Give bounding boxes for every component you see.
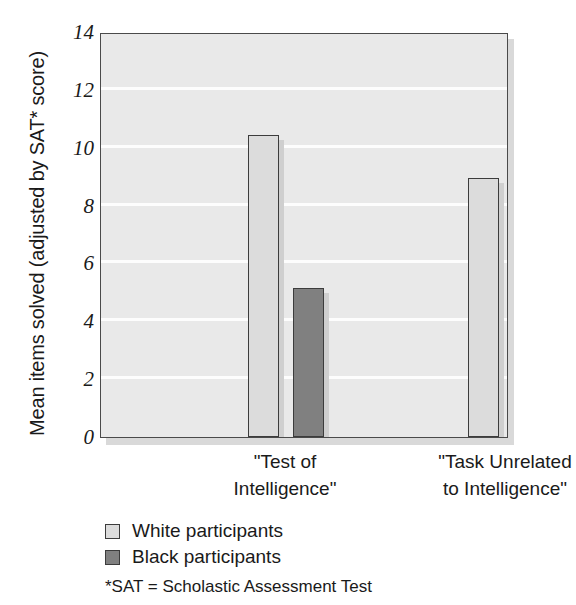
gridline: [101, 145, 507, 148]
y-axis-tick-label: 8: [52, 196, 94, 217]
gridline: [101, 260, 507, 263]
gridline: [101, 87, 507, 90]
legend-item-label: White participants: [132, 520, 283, 542]
dark-gray-swatch: [105, 550, 120, 565]
y-axis-tick-label: 4: [52, 311, 94, 332]
y-axis-tick-label: 0: [52, 427, 94, 448]
x-axis-category-label: "Task Unrelatedto Intelligence": [395, 448, 576, 502]
category-label-line: Intelligence": [175, 475, 395, 502]
footnote: *SAT = Scholastic Assessment Test: [105, 577, 372, 597]
chart-legend: White participantsBlack participants: [105, 518, 435, 570]
x-axis-category-label: "Test ofIntelligence": [175, 448, 395, 502]
y-axis-title: Mean items solved (adjusted by SAT* scor…: [26, 34, 49, 454]
gridline: [101, 203, 507, 206]
y-axis-tick-labels: 02468101214: [52, 0, 94, 605]
y-axis-tick-label: 12: [52, 80, 94, 101]
bar-black-participants-group-1[interactable]: [293, 288, 324, 437]
plot-area: [100, 33, 508, 438]
category-label-line: to Intelligence": [395, 475, 576, 502]
legend-item-label: Black participants: [132, 546, 281, 568]
legend-item[interactable]: Black participants: [105, 544, 435, 570]
light-gray-swatch: [105, 524, 120, 539]
bar-white-participants-group-2[interactable]: [468, 178, 499, 437]
legend-item[interactable]: White participants: [105, 518, 435, 544]
y-axis-tick-label: 14: [52, 22, 94, 43]
y-axis-tick-label: 6: [52, 253, 94, 274]
x-axis-category-labels: "Test ofIntelligence""Task Unrelatedto I…: [100, 448, 508, 510]
category-label-line: "Test of: [175, 448, 395, 475]
category-label-line: "Task Unrelated: [395, 448, 576, 475]
y-axis-tick-label: 10: [52, 138, 94, 159]
y-axis-tick-label: 2: [52, 369, 94, 390]
bar-white-participants-group-1[interactable]: [248, 135, 279, 437]
